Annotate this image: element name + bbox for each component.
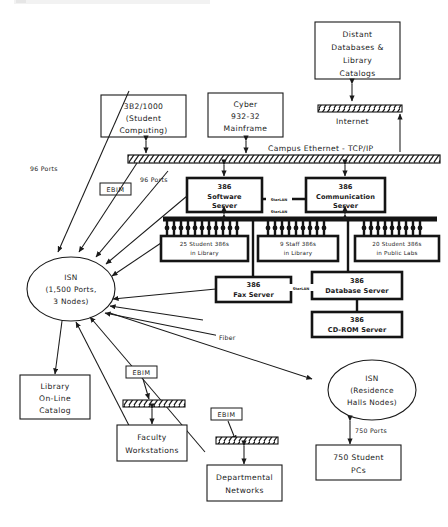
student-386s-labs-line-2: in Public Labs: [376, 250, 417, 256]
bus-faculty: [123, 400, 185, 407]
distant-databases-line-2: Databases &: [331, 43, 383, 52]
node-fax-server: 386 Fax Server: [216, 277, 291, 302]
database-server-line-1: Database Server: [325, 287, 389, 295]
library-catalog-line-1: Library: [40, 382, 69, 391]
isn-main-line-2: (1,500 Ports,: [45, 285, 96, 294]
isn-main-line-1: ISN: [64, 273, 77, 282]
node-student-386s-library: 25 Student 386s in Library: [161, 236, 248, 261]
bus-departmental: [216, 437, 278, 444]
node-student-386s-public-labs: 20 Student 386s in Public Labs: [355, 236, 439, 261]
software-server-line-2: Server: [212, 202, 238, 210]
ports-750-label: 750 Ports: [355, 427, 387, 434]
fiber-label: Fiber: [219, 334, 236, 341]
ebim-3-label: EBIM: [217, 411, 235, 419]
departmental-networks-line-2: Networks: [225, 486, 263, 495]
communication-server-line-2: Server: [333, 202, 359, 210]
device-ebim-1: EBIM: [100, 183, 131, 195]
ebim-2-label: EBIM: [132, 369, 150, 377]
fax-server-line-1: Fax Server: [233, 291, 274, 299]
faculty-workstations-line-1: Faculty: [137, 433, 166, 442]
student-386s-library-line-1: 25 Student 386s: [180, 241, 229, 247]
staff-386s-library-line-2: in Library: [284, 250, 313, 257]
node-database-server: 386 Database Server: [312, 272, 402, 299]
communication-server-line-1: Communication: [316, 193, 375, 201]
network-topology-diagram: Distant Databases & Library Catalogs Int…: [0, 0, 448, 527]
software-server-line-1: Software: [207, 193, 242, 201]
b3b2-line-2: (Student: [126, 114, 162, 123]
node-staff-386s-library: 9 Staff 386s in Library: [258, 236, 338, 261]
database-server-model: 386: [350, 277, 364, 285]
student-386s-labs-line-1: 20 Student 386s: [372, 241, 421, 247]
departmental-networks-line-1: Departmental: [216, 473, 273, 482]
node-isn-main: ISN (1,500 Ports, 3 Nodes): [27, 257, 115, 321]
device-ebim-2: EBIM: [126, 366, 157, 378]
software-server-model: 386: [217, 183, 231, 191]
starlan-label-1: StarLAN: [271, 198, 288, 202]
cdrom-server-line-1: CD-ROM Server: [328, 326, 387, 334]
node-cdrom-server: 386 CD-ROM Server: [312, 312, 402, 337]
b3b2-line-3: Computing): [119, 126, 167, 135]
internet-bus-label: Internet: [336, 117, 369, 126]
student-pcs-line-1: 750 Student: [333, 453, 384, 462]
node-student-pcs: 750 Student PCs: [316, 445, 401, 480]
ebim-1-label: EBIM: [106, 186, 124, 194]
internet-bus-bar: [318, 105, 402, 112]
link-starlan-fax-database: StarLAN: [288, 284, 314, 291]
distant-databases-line-1: Distant: [343, 30, 373, 39]
cyber-line-3: Mainframe: [224, 124, 268, 133]
campus-ethernet-label: Campus Ethernet - TCP/IP: [268, 144, 374, 153]
ports-96-label-a: 96 Ports: [30, 165, 58, 172]
distant-databases-line-3: Library: [343, 56, 372, 65]
departmental-bus-bar: [216, 437, 278, 444]
node-cyber-mainframe: Cyber 932-32 Mainframe: [208, 93, 283, 137]
distant-databases-line-4: Catalogs: [340, 69, 376, 78]
library-catalog-line-2: On-Line: [39, 394, 71, 403]
cdrom-server-model: 386: [350, 316, 364, 324]
node-library-catalog: Library On-Line Catalog: [20, 375, 90, 419]
communication-server-model: 386: [338, 183, 352, 191]
starlan-label-3: StarLAN: [293, 287, 310, 291]
starlan-label-2: StarLAN: [271, 210, 288, 214]
isn-residence-line-2: (Residence: [350, 386, 394, 395]
library-catalog-line-3: Catalog: [39, 406, 71, 415]
isn-residence-line-1: ISN: [365, 374, 378, 383]
node-3b2-1000: 3B2/1000 (Student Computing): [101, 95, 186, 137]
fax-server-model: 386: [246, 281, 260, 289]
node-isn-residence: ISN (Residence Halls Nodes): [328, 360, 416, 420]
node-faculty-workstations: Faculty Workstations: [117, 425, 187, 461]
node-departmental-networks: Departmental Networks: [207, 465, 282, 501]
faculty-workstations-line-2: Workstations: [125, 446, 179, 455]
starlan-backbone-bar: [163, 217, 437, 222]
staff-386s-library-line-1: 9 Staff 386s: [280, 241, 316, 247]
student-pcs-line-2: PCs: [351, 466, 366, 475]
faculty-bus-bar: [123, 400, 185, 407]
isn-main-line-3: 3 Nodes): [53, 297, 88, 306]
top-crop-artifact: [14, 0, 210, 4]
cyber-line-2: 932-32: [231, 112, 260, 121]
student-386s-library-line-2: in Library: [190, 250, 219, 257]
cyber-line-1: Cyber: [233, 100, 258, 109]
b3b2-line-1: 3B2/1000: [124, 102, 164, 111]
node-distant-databases: Distant Databases & Library Catalogs: [315, 22, 400, 79]
campus-ethernet-bar: [128, 155, 440, 163]
device-ebim-3: EBIM: [211, 408, 242, 420]
isn-residence-line-3: Halls Nodes): [347, 398, 397, 407]
